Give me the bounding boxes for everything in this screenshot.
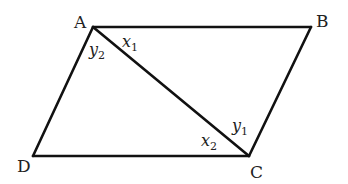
vertex-label-c: C <box>250 162 263 182</box>
vertex-label-b: B <box>316 11 329 31</box>
parallelogram-diagram: A B D C x1 y2 y1 x2 <box>0 0 348 184</box>
edge-da <box>33 27 93 156</box>
angle-label-x1: x1 <box>122 32 138 54</box>
angle-label-x2: x2 <box>201 131 217 153</box>
diagonal-ac <box>93 27 249 156</box>
edge-bc <box>249 27 311 156</box>
vertex-label-d: D <box>17 156 31 176</box>
vertex-label-a: A <box>73 12 87 32</box>
angle-label-y2: y2 <box>88 40 105 62</box>
angle-label-y1: y1 <box>231 116 248 138</box>
